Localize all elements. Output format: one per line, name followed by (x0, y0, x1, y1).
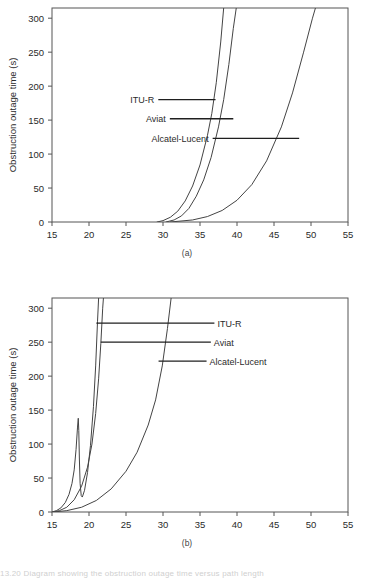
y-tick-label: 50 (33, 473, 44, 484)
curves-group (52, 298, 171, 512)
x-tick-label: 40 (232, 229, 243, 240)
annotation-label-alcatel-lucent: Alcatel-Lucent (152, 134, 210, 144)
x-tick-label: 55 (343, 229, 354, 240)
y-tick-label: 300 (28, 13, 44, 24)
plot-frame (52, 8, 348, 222)
x-tick-label: 35 (195, 519, 206, 530)
x-tick-label: 30 (158, 229, 169, 240)
x-tick-label: 55 (343, 519, 354, 530)
y-axis-title: Obstruction outage time (s) (7, 58, 18, 173)
y-tick-label: 250 (28, 337, 44, 348)
y-axis-title: Obstruction outage time (s) (7, 348, 18, 463)
x-tick-label: 20 (84, 229, 95, 240)
panel-a-sublabel: (a) (0, 248, 374, 258)
figure-panel-b: 050100150200250300152025303540455055Path… (0, 290, 374, 566)
y-tick-label: 200 (28, 81, 44, 92)
x-tick-label: 25 (121, 229, 132, 240)
panel-b-sublabel: (b) (0, 538, 374, 548)
curve-aviat (53, 298, 104, 512)
y-tick-label: 0 (39, 217, 44, 228)
annotation-label-aviat: Aviat (146, 114, 166, 124)
chart-b-svg: 050100150200250300152025303540455055Path… (0, 290, 374, 536)
x-tick-label: 15 (47, 229, 58, 240)
figure-panel-a: 050100150200250300152025303540455055Path… (0, 0, 374, 276)
y-tick-label: 100 (28, 149, 44, 160)
x-tick-label: 50 (306, 519, 317, 530)
figure-caption: 13.20 Diagram showing the obstruction ou… (0, 569, 374, 581)
y-tick-label: 100 (28, 439, 44, 450)
x-tick-label: 45 (269, 519, 280, 530)
annotation-label-itu-r: ITU-R (130, 95, 154, 105)
curve-itu-r (52, 298, 99, 512)
x-tick-label: 45 (269, 229, 280, 240)
annotation-label-itu-r: ITU-R (217, 319, 241, 329)
chart-a-svg: 050100150200250300152025303540455055Path… (0, 0, 374, 246)
y-tick-label: 150 (28, 115, 44, 126)
x-tick-label: 50 (306, 229, 317, 240)
x-tick-label: 25 (121, 519, 132, 530)
y-tick-label: 300 (28, 303, 44, 314)
curve-aviat (166, 8, 236, 222)
curve-alcatel-lucent (53, 298, 171, 512)
x-tick-label: 40 (232, 519, 243, 530)
x-tick-label: 15 (47, 519, 58, 530)
curve-itu-r (157, 8, 224, 222)
curve-alcatel-lucent (170, 8, 315, 222)
annotation-label-aviat: Aviat (214, 338, 234, 348)
y-tick-label: 0 (39, 507, 44, 518)
y-tick-label: 200 (28, 371, 44, 382)
x-tick-label: 30 (158, 519, 169, 530)
curves-group (157, 8, 315, 222)
x-tick-label: 20 (84, 519, 95, 530)
chart-a-plot-area: 050100150200250300152025303540455055Path… (0, 0, 374, 246)
y-tick-label: 50 (33, 183, 44, 194)
x-tick-label: 35 (195, 229, 206, 240)
y-tick-label: 150 (28, 405, 44, 416)
chart-b-plot-area: 050100150200250300152025303540455055Path… (0, 290, 374, 536)
annotation-label-alcatel-lucent: Alcatel-Lucent (210, 357, 268, 367)
y-tick-label: 250 (28, 47, 44, 58)
